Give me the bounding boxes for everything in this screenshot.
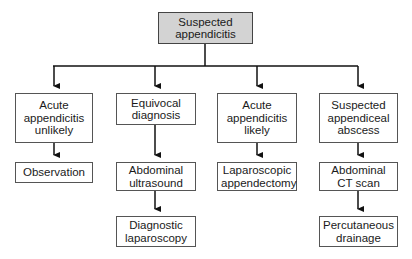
node-suspected-appendiceal-abscess: Suspected appendiceal abscess	[319, 93, 398, 143]
node-laparoscopic-appendectomy: Laparoscopic appendectomy	[217, 162, 297, 191]
node-label: Abdominal CT scan	[329, 164, 389, 189]
node-abdominal-ct-scan: Abdominal CT scan	[319, 162, 398, 191]
node-label: Equivocal diagnosis	[126, 97, 186, 122]
node-label: Diagnostic laparoscopy	[122, 219, 190, 244]
node-acute-appendicitis-unlikely: Acute appendicitis unlikely	[15, 93, 93, 143]
node-abdominal-ultrasound: Abdominal ultrasound	[116, 162, 196, 191]
node-observation: Observation	[15, 162, 93, 183]
node-label: Acute appendicitis likely	[221, 99, 293, 137]
node-label: Observation	[23, 166, 85, 179]
node-label: Suspected appendicitis	[171, 16, 241, 41]
node-acute-appendicitis-likely: Acute appendicitis likely	[217, 93, 297, 143]
node-equivocal-diagnosis: Equivocal diagnosis	[116, 93, 196, 125]
node-label: Suspected appendiceal abscess	[324, 99, 394, 137]
node-diagnostic-laparoscopy: Diagnostic laparoscopy	[116, 216, 196, 247]
node-label: Laparoscopic appendectomy	[221, 164, 293, 189]
node-label: Acute appendicitis unlikely	[18, 99, 90, 137]
node-suspected-appendicitis: Suspected appendicitis	[158, 12, 253, 44]
node-label: Abdominal ultrasound	[125, 164, 187, 189]
node-label: Percutaneous drainage	[322, 219, 395, 244]
node-percutaneous-drainage: Percutaneous drainage	[319, 216, 398, 247]
